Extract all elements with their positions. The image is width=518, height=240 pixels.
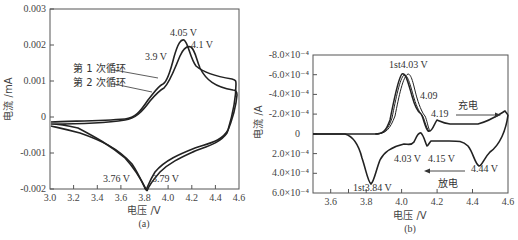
chart-a-frame [50,9,239,189]
x-tick-label: 4.2 [186,192,199,203]
x-tick-label: 3.0 [44,192,57,203]
chart-b-x-axis [331,189,473,193]
annotation-shoulder: 3.9 V [145,51,168,62]
charge-curve [376,74,430,134]
annotation-peak: 4.1 V [191,39,214,50]
y-tick-label: 0 [295,128,300,139]
annotation-charge-peak: 1st4.03 V [389,59,428,70]
chart-a: 0.003 0.002 0.001 0 -0.001 -0.002 3.0 3.… [2,3,245,230]
y-tick-label: -8.0×10⁻⁴ [269,49,310,60]
y-tick-label: -2.0×10⁻⁴ [269,108,310,119]
x-tick-label: 3.2 [67,192,80,203]
annotation-peak: 4.05 V [170,27,198,38]
annotation-discharge-peak: 4.03 V [394,153,422,164]
y-tick-label: 0.003 [24,3,47,14]
figure: 0.003 0.002 0.001 0 -0.001 -0.002 3.0 3.… [0,0,518,240]
x-tick-label: 4.6 [502,196,515,207]
x-tick-label: 4.0 [395,196,408,207]
y-tick-label: 4.0×10⁻⁴ [272,167,309,178]
y-tick-label: -4.0×10⁻⁴ [269,88,310,99]
y-tick-label: 0.001 [24,75,47,86]
annotation-discharge-peak: 4.44 V [471,163,499,174]
chart-b: -8.0×10⁻⁴ -6.0×10⁻⁴ -4.0×10⁻⁴ -2.0×10⁻⁴ … [252,49,514,235]
y-axis-title: 电流 /A [252,105,264,139]
x-tick-label: 3.4 [91,192,104,203]
discharge-arrow [424,169,465,174]
x-tick-label: 4.4 [209,192,222,203]
y-tick-label: 0 [41,111,46,122]
y-axis-title: 电流 /mA [2,77,14,120]
discharge-label: 放电 [438,177,458,189]
chart-b-y-axis [313,75,317,174]
x-tick-label: 3.6 [324,196,337,207]
annotation-charge-peak: 4.19 [431,108,449,119]
panel-label: (b) [404,223,416,235]
x-tick-label: 4.0 [162,192,175,203]
y-tick-label: -0.002 [20,183,46,194]
annotation-discharge-peak: 1st3.84 V [353,182,392,193]
charge-label: 充电 [458,99,478,111]
x-tick-label: 4.6 [233,192,246,203]
x-axis-title: 电压 /V [127,204,161,216]
y-tick-label: 0.002 [24,39,47,50]
y-tick-label: -6.0×10⁻⁴ [269,69,310,80]
x-tick-label: 3.8 [138,192,151,203]
annotation-discharge-peak: 4.15 V [428,153,456,164]
x-tick-label: 4.4 [466,196,479,207]
annotation-reduction-peak: 3.79 V [152,173,180,184]
legend-cycle-1: 第 1 次循环 [73,62,126,74]
charge-curve [313,74,508,134]
y-tick-label: 6.0×10⁻⁴ [272,187,309,198]
annotation-charge-peak: 4.09 [420,90,438,101]
y-tick-label: 2.0×10⁻⁴ [272,148,309,159]
x-tick-label: 4.2 [431,196,444,207]
x-tick-label: 3.6 [115,192,128,203]
panel-label: (a) [138,218,149,230]
annotation-reduction-peak: 3.76 V [103,173,131,184]
x-axis-title: 电压 /V [393,209,427,221]
chart-a-y-axis [50,9,54,189]
x-tick-label: 3.8 [360,196,373,207]
y-tick-label: -0.001 [20,147,46,158]
legend-cycle-2: 第 2 次循环 [73,76,126,88]
